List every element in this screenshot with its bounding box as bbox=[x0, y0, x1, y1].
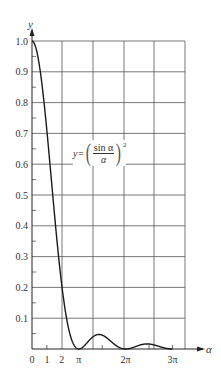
y-tick-label: 0.6 bbox=[16, 159, 29, 170]
y-axis-label: y bbox=[27, 18, 33, 30]
y-tick-label: 0.7 bbox=[16, 128, 29, 139]
y-tick-label: 0.8 bbox=[16, 97, 29, 108]
y-tick-label: 0.1 bbox=[16, 313, 29, 324]
y-tick-label: 0.9 bbox=[16, 66, 29, 77]
chart-plot: 0.10.20.30.40.50.60.70.80.91.0012π2π3π y… bbox=[0, 0, 221, 373]
x-tick-label: 2π bbox=[121, 354, 131, 365]
x-tick-label: π bbox=[76, 354, 81, 365]
y-tick-label: 0.4 bbox=[16, 220, 29, 231]
axes bbox=[30, 28, 206, 352]
x-axis-label: α bbox=[206, 343, 212, 355]
tick-labels: 0.10.20.30.40.50.60.70.80.91.0012π2π3π bbox=[16, 36, 178, 366]
formula-label: y= ( sin α α ) 2 bbox=[73, 140, 126, 166]
y-tick-label: 0.3 bbox=[16, 251, 29, 262]
x-tick-label: 0 bbox=[30, 354, 35, 365]
fraction: sin α α bbox=[93, 142, 114, 165]
y-tick-label: 1.0 bbox=[16, 36, 29, 47]
y-tick-label: 0.2 bbox=[16, 282, 29, 293]
x-axis-arrow-icon bbox=[197, 347, 205, 352]
x-tick-label: 3π bbox=[167, 354, 177, 365]
x-tick-label: 1 bbox=[44, 354, 49, 365]
left-paren: ( bbox=[86, 140, 91, 166]
exponent: 2 bbox=[123, 141, 127, 149]
numerator: sin α bbox=[93, 142, 114, 154]
x-tick-label: 2 bbox=[59, 354, 64, 365]
right-paren: ) bbox=[116, 140, 121, 166]
formula-lhs: y= bbox=[73, 148, 84, 159]
denominator: α bbox=[101, 154, 106, 165]
y-tick-label: 0.5 bbox=[16, 190, 29, 201]
grid-lines bbox=[32, 41, 185, 349]
